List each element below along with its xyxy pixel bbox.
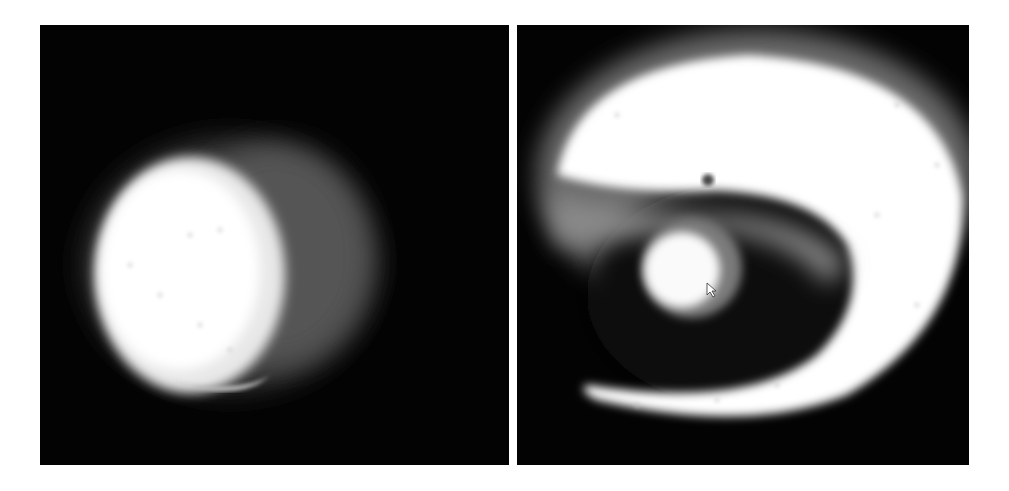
right-image-panel xyxy=(517,25,969,465)
left-image-panel xyxy=(40,25,509,465)
right-spiral-image xyxy=(517,25,969,465)
left-blob-image xyxy=(40,25,509,465)
